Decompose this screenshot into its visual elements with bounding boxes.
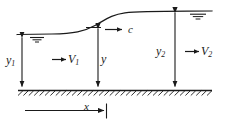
label-celerity: c bbox=[128, 24, 133, 35]
label-velocity-upstream: V1 bbox=[68, 53, 79, 65]
water-surface-profile bbox=[17, 11, 212, 35]
label-velocity-downstream: V2 bbox=[201, 45, 212, 57]
label-depth-wave-front: y bbox=[101, 53, 106, 65]
label-distance: x bbox=[84, 101, 89, 112]
bed-hatching bbox=[18, 91, 212, 96]
water-level-symbol-left bbox=[30, 38, 44, 43]
label-depth-upstream: y1 bbox=[6, 54, 15, 66]
diagram-canvas bbox=[0, 0, 227, 129]
channel-bed bbox=[18, 91, 212, 96]
surge-wave-diagram: y1 V1 c y y2 V2 x bbox=[0, 0, 227, 129]
distance-dimension-x bbox=[25, 104, 107, 119]
water-level-symbol-right bbox=[190, 14, 206, 19]
label-depth-downstream: y2 bbox=[156, 45, 165, 57]
